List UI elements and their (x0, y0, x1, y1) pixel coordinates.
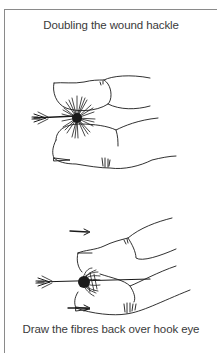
frame-top-border (4, 9, 217, 10)
caption-draw-fibres-back: Draw the fibres back over hook eye (5, 323, 217, 335)
caption-doubling-hackle: Doubling the wound hackle (5, 19, 217, 31)
illustration-fingers-holding-hackle (0, 60, 217, 180)
illustration-fingers-drawing-fibres-back (0, 210, 217, 320)
